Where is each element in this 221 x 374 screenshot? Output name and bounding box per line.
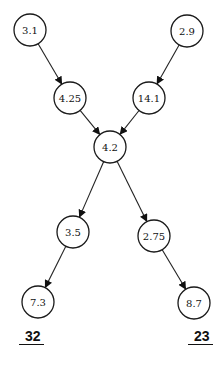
directed-graph: 3.12.94.2514.14.23.52.757.38.7 [0,0,221,374]
right-total-label: 23 [188,329,213,345]
graph-node: 4.25 [54,82,86,114]
edge-arrow [38,44,62,84]
node-label: 2.75 [143,231,165,242]
node-label: 4.2 [102,142,118,153]
edge-arrow [80,162,104,217]
edge-arrow [117,161,147,221]
edge-arrow [120,111,139,135]
graph-node: 2.75 [138,220,170,252]
nodes-layer: 3.12.94.2514.14.23.52.757.38.7 [14,14,210,319]
graph-node: 4.2 [94,131,126,163]
graph-node: 3.1 [14,14,46,46]
edge-arrow [162,250,185,289]
node-label: 14.1 [138,93,160,104]
graph-node: 7.3 [22,286,54,318]
edge-arrow [45,246,65,287]
edge-arrow [80,110,99,134]
left-total-label: 32 [19,329,44,345]
node-label: 3.5 [65,227,81,238]
node-label: 8.7 [186,298,202,309]
graph-node: 8.7 [178,287,210,319]
edge-arrow [157,45,179,84]
edges-layer [38,44,185,289]
node-label: 3.1 [22,25,38,36]
node-label: 7.3 [30,297,46,308]
node-label: 2.9 [179,26,195,37]
graph-node: 3.5 [57,216,89,248]
node-label: 4.25 [59,93,81,104]
graph-node: 14.1 [133,82,165,114]
graph-node: 2.9 [171,15,203,47]
